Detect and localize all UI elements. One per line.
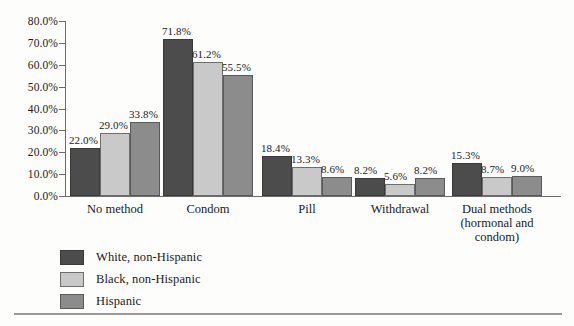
footer-divider <box>14 313 562 315</box>
bar[interactable] <box>355 178 385 196</box>
bar-value-label: 8.2% <box>414 164 437 176</box>
y-axis-tick-mark <box>59 196 66 197</box>
y-axis-tick-label: 60.0% <box>28 59 58 71</box>
legend-item[interactable]: Black, non-Hispanic <box>60 269 202 289</box>
y-axis-tick-mark <box>59 130 66 131</box>
bar-value-label: 13.3% <box>291 153 320 165</box>
bar[interactable] <box>100 133 130 196</box>
bar[interactable] <box>163 39 193 196</box>
bar-value-label: 71.8% <box>162 25 191 37</box>
y-axis-tick-label: 80.0% <box>28 15 58 27</box>
bar-value-label: 18.4% <box>261 142 290 154</box>
legend-item[interactable]: Hispanic <box>60 291 202 311</box>
y-axis-tick-mark <box>59 87 66 88</box>
y-axis-tick-label: 50.0% <box>28 81 58 93</box>
bar[interactable] <box>452 163 482 196</box>
bar-value-label: 5.6% <box>384 170 407 182</box>
bar-value-label: 33.8% <box>129 108 158 120</box>
bar-value-label: 8.6% <box>321 163 344 175</box>
y-axis-tick-label: 40.0% <box>28 103 58 115</box>
x-axis-line <box>65 196 561 197</box>
bar-group: 15.3%8.7%9.0% <box>452 21 542 196</box>
legend-color-swatch <box>60 294 84 309</box>
bar[interactable] <box>292 167 322 196</box>
bar-value-label: 8.7% <box>481 163 504 175</box>
bar[interactable] <box>262 156 292 196</box>
bar-value-label: 9.0% <box>511 162 534 174</box>
y-axis-tick-label: 30.0% <box>28 124 58 136</box>
bar-value-label: 15.3% <box>451 149 480 161</box>
legend-item[interactable]: White, non-Hispanic <box>60 247 202 267</box>
legend-color-swatch <box>60 250 84 265</box>
legend-item-label: Black, non-Hispanic <box>96 272 201 287</box>
legend-item-label: White, non-Hispanic <box>96 250 202 265</box>
legend-color-swatch <box>60 272 84 287</box>
bar-value-label: 8.2% <box>354 164 377 176</box>
bar[interactable] <box>482 177 512 196</box>
bar[interactable] <box>223 75 253 196</box>
x-axis-category-label: Dual methods (hormonal and condom) <box>422 202 572 244</box>
bar[interactable] <box>322 177 352 196</box>
y-axis-tick-mark <box>59 21 66 22</box>
bar-group: 22.0%29.0%33.8% <box>70 21 160 196</box>
y-axis-tick-label: 10.0% <box>28 168 58 180</box>
legend-item-label: Hispanic <box>96 294 141 309</box>
bar[interactable] <box>415 178 445 196</box>
bar-value-label: 29.0% <box>99 119 128 131</box>
bar-group: 18.4%13.3%8.6% <box>262 21 352 196</box>
y-axis-tick-label: 20.0% <box>28 146 58 158</box>
chart-legend: White, non-HispanicBlack, non-HispanicHi… <box>60 247 202 313</box>
y-axis-tick-mark <box>59 174 66 175</box>
y-axis-tick-mark <box>59 109 66 110</box>
bar-value-label: 22.0% <box>69 134 98 146</box>
bar[interactable] <box>130 122 160 196</box>
bar-value-label: 55.5% <box>222 61 251 73</box>
y-axis-tick-mark <box>59 43 66 44</box>
bar[interactable] <box>512 176 542 196</box>
bar-group: 71.8%61.2%55.5% <box>163 21 253 196</box>
bar[interactable] <box>385 184 415 196</box>
bar-chart: 0.0%10.0%20.0%30.0%40.0%50.0%60.0%70.0%8… <box>0 0 574 326</box>
y-axis-tick-mark <box>59 65 66 66</box>
y-axis-tick-label: 70.0% <box>28 37 58 49</box>
y-axis-tick-label: 0.0% <box>34 190 58 202</box>
bar-value-label: 61.2% <box>192 48 221 60</box>
y-axis-tick-mark <box>59 152 66 153</box>
bar[interactable] <box>193 62 223 196</box>
bar-group: 8.2%5.6%8.2% <box>355 21 445 196</box>
bar[interactable] <box>70 148 100 196</box>
